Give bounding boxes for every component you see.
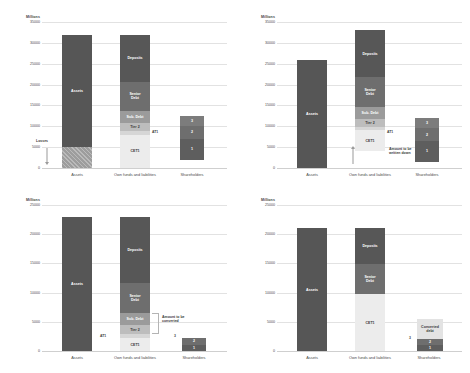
- bar-segment-assets: Assets: [297, 228, 327, 351]
- plot-area-top-right: 35000 30000 25000 20000 15000 10000 5000…: [277, 22, 462, 168]
- y-tick-label: 25000: [24, 62, 40, 66]
- x-axis-label-own-funds: Own funds and liabilities: [349, 355, 391, 360]
- bar-segment-at1: [120, 131, 150, 135]
- y-tick-label: 20000: [24, 83, 40, 87]
- x-axis-label-assets: Assets: [306, 355, 318, 360]
- bar-segment-shareholder-2: 2: [415, 128, 439, 141]
- bar-segment-sub-debt: Sub. Debt: [120, 313, 150, 325]
- x-axis-label-assets: Assets: [71, 172, 83, 177]
- x-axis-label-shareholders: Shareholders: [182, 355, 205, 360]
- y-tick-label: 0: [24, 166, 40, 170]
- at1-callout-label: AT1: [100, 334, 106, 338]
- x-axis-label-assets: Assets: [71, 355, 83, 360]
- bar-segment-at1: [120, 334, 150, 338]
- at1-callout-label: AT1: [387, 130, 393, 134]
- bar-shareholders: 1 2 3: [415, 118, 439, 162]
- bar-own-funds-and-liabilities: CET1 Senior Debt Deposits: [355, 228, 385, 351]
- at1-callout-label: AT1: [152, 130, 158, 134]
- gridline: [42, 22, 227, 23]
- bar-segment-senior-debt: Senior Debt: [355, 77, 385, 106]
- x-axis-baseline: [277, 168, 462, 169]
- gridline: [277, 22, 462, 23]
- x-axis-label-assets: Assets: [306, 172, 318, 177]
- y-tick-label: 15000: [259, 261, 275, 265]
- bar-segment-shareholder-1: 1: [180, 139, 204, 160]
- arrow-shaft: [47, 148, 48, 162]
- bar-segment-assets: Assets: [62, 35, 92, 148]
- bar-segment-cet1: CET1: [355, 294, 385, 351]
- losses-annotation-label: Losses: [36, 139, 48, 143]
- bar-segment-at1: [355, 127, 385, 131]
- bar-segment-tier2: Tier 2: [120, 123, 150, 131]
- panel-bottom-right: Millions 25000 20000 15000 10000 5000 0 …: [235, 190, 470, 373]
- bar-segment-cet1: CET1: [120, 338, 150, 351]
- y-tick-label: 25000: [259, 203, 275, 207]
- x-axis-baseline: [277, 351, 462, 352]
- x-axis-label-shareholders: Shareholders: [415, 172, 438, 177]
- y-tick-label: 5000: [24, 145, 40, 149]
- bar-segment-tier2: Tier 2: [120, 325, 150, 334]
- four-panel-chart-figure: Millions 35000 30000 25000 20000 15000 1…: [0, 0, 470, 373]
- bar-assets: Assets: [62, 217, 92, 351]
- bar-segment-cet1: CET1: [120, 135, 150, 168]
- x-axis-label-own-funds: Own funds and liabilities: [114, 172, 156, 177]
- x-axis-label-shareholders: Shareholders: [180, 172, 203, 177]
- y-tick-label: 10000: [259, 124, 275, 128]
- y-tick-label: 15000: [24, 261, 40, 265]
- bar-segment-senior-debt: Senior Debt: [355, 264, 385, 294]
- y-tick-label: 15000: [259, 103, 275, 107]
- bar-assets: Assets: [62, 35, 92, 169]
- y-tick-label: 35000: [24, 20, 40, 24]
- y-tick-label: 10000: [24, 124, 40, 128]
- y-tick-label: 25000: [259, 62, 275, 66]
- plot-area-top-left: 35000 30000 25000 20000 15000 10000 5000…: [42, 22, 227, 168]
- bar-shareholders: 1 2: [182, 338, 206, 351]
- bar-segment-assets: Assets: [297, 60, 327, 169]
- y-tick-label: 0: [259, 349, 275, 353]
- y-tick-label: 5000: [259, 320, 275, 324]
- panel-bottom-left: Millions 25000 20000 15000 10000 5000 0 …: [0, 190, 235, 373]
- axis-unit-label: Millions: [26, 198, 40, 202]
- arrow-head: [351, 146, 355, 149]
- bar-segment-deposits: Deposits: [355, 228, 385, 264]
- panel-top-right: Millions 35000 30000 25000 20000 15000 1…: [235, 0, 470, 190]
- shareholder-3-outside-label: 3: [174, 334, 176, 338]
- bar-segment-shareholder-3: 3: [415, 118, 439, 128]
- arrow-head: [45, 162, 49, 165]
- x-axis-baseline: [42, 168, 227, 169]
- bar-segment-senior-debt: Senior Debt: [120, 283, 150, 313]
- y-tick-label: 5000: [259, 145, 275, 149]
- bar-shareholders: 1 2 3: [180, 116, 204, 160]
- y-tick-label: 20000: [259, 83, 275, 87]
- writedown-up-arrow: [347, 146, 359, 164]
- plot-area-bottom-right: 25000 20000 15000 10000 5000 0 Assets CE…: [277, 205, 462, 351]
- x-axis-label-own-funds: Own funds and liabilities: [114, 355, 156, 360]
- x-axis-baseline: [42, 351, 227, 352]
- bar-shareholders: 1 2 Converted debt: [417, 319, 443, 351]
- bar-segment-sub-debt: Sub. Debt: [355, 107, 385, 120]
- axis-unit-label: Millions: [261, 198, 275, 202]
- gridline: [277, 205, 462, 206]
- y-tick-label: 30000: [24, 41, 40, 45]
- amount-converted-annotation-label: Amount to be converted: [162, 315, 185, 323]
- y-tick-label: 20000: [24, 232, 40, 236]
- bar-segment-deposits: Deposits: [355, 30, 385, 77]
- hatch-pattern: [62, 147, 92, 168]
- bar-assets: Assets: [297, 228, 327, 351]
- panel-top-left: Millions 35000 30000 25000 20000 15000 1…: [0, 0, 235, 190]
- y-tick-label: 35000: [259, 20, 275, 24]
- bar-segment-shareholder-2: 2: [180, 126, 204, 139]
- arrow-shaft: [353, 149, 354, 164]
- gridline: [42, 205, 227, 206]
- bar-segment-shareholder-2: 2: [417, 339, 443, 345]
- bar-assets: Assets: [297, 60, 327, 169]
- y-tick-label: 0: [24, 349, 40, 353]
- writedown-annotation-label: Amount to be written down: [389, 147, 412, 155]
- bar-segment-converted-debt: Converted debt: [417, 319, 443, 339]
- bar-segment-shareholder-1: 1: [182, 345, 206, 351]
- bar-segment-losses: [62, 147, 92, 168]
- bar-segment-shareholder-3: 3: [180, 116, 204, 126]
- bar-segment-shareholder-1: 1: [415, 141, 439, 162]
- bar-own-funds-and-liabilities: CET1 Tier 2 Sub. Debt Senior Debt Deposi…: [120, 35, 150, 169]
- amount-converted-bracket: [152, 313, 159, 334]
